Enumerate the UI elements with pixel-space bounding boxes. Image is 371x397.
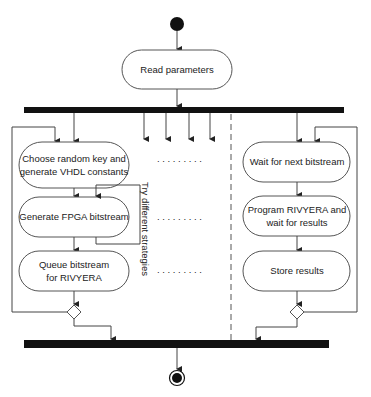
join-bar <box>24 340 329 348</box>
program-rivyera-label-2: wait for results <box>265 217 327 228</box>
wait-bitstream-label: Wait for next bitstream <box>250 156 345 167</box>
choose-key-label-2: generate VHDL constants <box>20 166 129 177</box>
read-parameters-label: Read parameters <box>140 64 214 75</box>
left-decision-node <box>67 305 81 319</box>
queue-bitstream-label-1: Queue bitstream <box>39 259 109 270</box>
initial-node-icon <box>170 17 184 31</box>
dots-2: . . . . . . . . . <box>157 211 202 222</box>
right-decision-node <box>290 305 304 319</box>
queue-bitstream-label-2: for RIVYERA <box>46 272 102 283</box>
dots-1: . . . . . . . . . <box>157 153 202 164</box>
store-results-label: Store results <box>270 265 324 276</box>
program-rivyera-label-1: Program RIVYERA and <box>248 204 347 215</box>
dots-3: . . . . . . . . . <box>157 264 202 275</box>
activity-diagram: Read parameters Choose random key and ge… <box>0 0 371 397</box>
fork-bar <box>24 107 344 113</box>
choose-key-action <box>19 142 129 188</box>
generate-bitstream-label: Generate FPGA bitstream <box>19 211 128 222</box>
choose-key-label-1: Choose random key and <box>22 153 126 164</box>
program-rivyera-action <box>243 196 350 236</box>
queue-bitstream-action <box>19 251 129 291</box>
diagram-svg: Read parameters Choose random key and ge… <box>0 0 371 397</box>
try-strategies-label: Try different strategies <box>140 182 151 276</box>
